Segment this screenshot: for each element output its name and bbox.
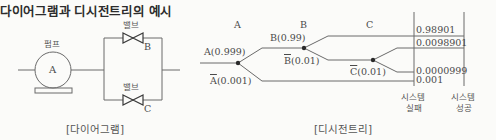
branch-c-success <box>373 48 464 60</box>
valve-c-label: 밸브 <box>123 83 139 92</box>
valve-b-letter: B <box>144 42 151 52</box>
outcome-2: 0.0098901 <box>416 38 467 48</box>
branch-label-a-success: A(0.999) <box>204 47 245 57</box>
pump-letter: A <box>49 65 56 75</box>
outcome-4: 0.001 <box>416 75 443 85</box>
column-header-b: B <box>300 20 307 30</box>
column-header-c: C <box>366 20 373 30</box>
success-label-line1: 시스템 <box>451 93 475 102</box>
branch-label-c-fail: C(0.01) <box>350 67 386 77</box>
outcome-1: 0.98901 <box>416 25 455 35</box>
branch-a-fail <box>238 63 414 81</box>
branch-label-b-success: B(0.99) <box>270 33 306 43</box>
node-b <box>302 46 306 50</box>
failure-label-line1: 시스템 <box>401 93 425 102</box>
pump-base <box>35 88 72 93</box>
failure-label-line2: 실패 <box>406 104 422 113</box>
branch-label-a-fail: A(0.001) <box>210 76 251 86</box>
node-a <box>236 61 240 65</box>
success-label-line2: 성공 <box>456 104 472 113</box>
decision-tree-caption: [디시전트리] <box>314 124 372 135</box>
node-c <box>371 58 375 62</box>
valve-c-icon <box>123 95 133 105</box>
column-header-a: A <box>234 20 241 30</box>
valve-c-letter: C <box>144 104 151 114</box>
diagram-caption: [다이어그램] <box>66 124 124 135</box>
valve-b-icon <box>123 33 133 43</box>
valve-b-label: 밸브 <box>123 21 139 30</box>
pump-label: 펌프 <box>44 40 60 49</box>
branch-label-b-fail: B(0.01) <box>284 56 320 66</box>
